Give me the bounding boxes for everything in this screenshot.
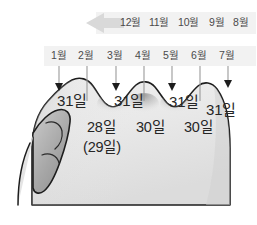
days-peak-4: 31일: [206, 102, 236, 117]
month-label-9: 9월: [209, 17, 224, 28]
month-label-1: 1월: [51, 50, 66, 61]
days-valley-3: 30일: [184, 120, 213, 135]
month-label-3: 3월: [107, 50, 122, 61]
month-label-12: 12월: [120, 17, 141, 28]
month-label-6: 6월: [191, 50, 206, 61]
month-label-11: 11월: [149, 17, 169, 28]
days-valley-1: 28일: [87, 120, 116, 135]
days-leap-note: (29일): [83, 140, 121, 155]
days-peak-1: 31일: [57, 93, 87, 108]
days-valley-2: 30일: [136, 120, 165, 135]
month-label-7: 7월: [219, 50, 234, 61]
days-peak-3: 31일: [169, 94, 199, 109]
month-label-2: 2월: [78, 50, 93, 61]
month-label-5: 5월: [163, 50, 178, 61]
diagram-canvas: 12월 11월 10월 9월 8월 1월 2월 3월 4월 5월 6월 7월 3…: [0, 0, 257, 225]
leftward-arrow-icon: [86, 13, 124, 33]
month-label-4: 4월: [135, 50, 150, 61]
month-label-8: 8월: [233, 17, 248, 28]
month-label-10: 10월: [178, 17, 199, 28]
days-peak-2: 31일: [114, 93, 144, 108]
